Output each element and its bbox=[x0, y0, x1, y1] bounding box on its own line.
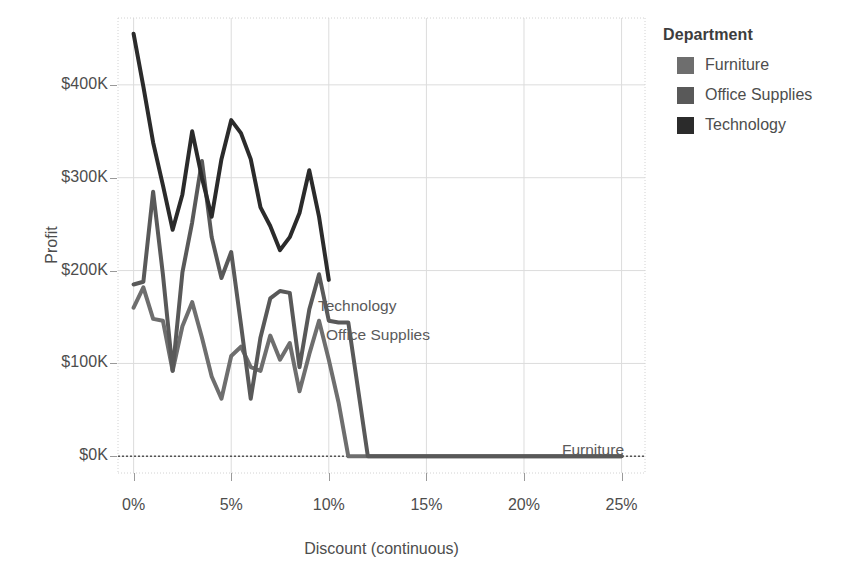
y-tick-mark bbox=[110, 456, 117, 457]
legend-item-label: Office Supplies bbox=[705, 86, 812, 104]
y-tick-label: $100K bbox=[61, 353, 108, 371]
series-lines bbox=[134, 34, 622, 457]
plot-area bbox=[118, 18, 645, 473]
inline-label-furniture: Furniture bbox=[562, 441, 624, 459]
x-tick-mark bbox=[622, 473, 623, 481]
y-tick-mark bbox=[110, 271, 117, 272]
x-tick-mark bbox=[134, 473, 135, 481]
x-tick-label: 5% bbox=[191, 496, 271, 514]
legend-item-office-supplies[interactable]: Office Supplies bbox=[663, 80, 838, 110]
legend-item-technology[interactable]: Technology bbox=[663, 110, 838, 140]
x-tick-label: 0% bbox=[94, 496, 174, 514]
legend-swatch-icon bbox=[677, 117, 694, 134]
legend-items: FurnitureOffice SuppliesTechnology bbox=[663, 50, 838, 140]
y-tick-mark bbox=[110, 363, 117, 364]
x-tick-label: 20% bbox=[484, 496, 564, 514]
y-tick-mark bbox=[110, 85, 117, 86]
plot-canvas bbox=[118, 18, 645, 473]
x-tick-label: 10% bbox=[289, 496, 369, 514]
x-tick-label: 25% bbox=[582, 496, 662, 514]
x-tick-mark bbox=[231, 473, 232, 481]
x-tick-mark bbox=[524, 473, 525, 481]
y-tick-label: $300K bbox=[61, 168, 108, 186]
legend-item-furniture[interactable]: Furniture bbox=[663, 50, 838, 80]
y-tick-label: $400K bbox=[61, 75, 108, 93]
legend-title: Department bbox=[663, 26, 838, 44]
legend-swatch-icon bbox=[677, 57, 694, 74]
chart-title-cropped bbox=[0, 0, 841, 9]
y-tick-label: $200K bbox=[61, 261, 108, 279]
x-tick-mark bbox=[329, 473, 330, 481]
y-tick-mark bbox=[110, 178, 117, 179]
x-tick-label: 15% bbox=[386, 496, 466, 514]
legend-item-label: Furniture bbox=[705, 56, 769, 74]
legend: Department FurnitureOffice SuppliesTechn… bbox=[663, 26, 838, 140]
legend-swatch-icon bbox=[677, 87, 694, 104]
x-axis-title: Discount (continuous) bbox=[118, 540, 645, 558]
y-axis-title: Profit bbox=[43, 185, 61, 305]
legend-item-label: Technology bbox=[705, 116, 786, 134]
x-tick-mark bbox=[426, 473, 427, 481]
inline-label-office-supplies: Office Supplies bbox=[326, 326, 430, 344]
inline-label-technology: Technology bbox=[318, 297, 396, 315]
profit-by-discount-line-chart: $0K$100K$200K$300K$400K 0%5%10%15%20%25%… bbox=[0, 0, 841, 580]
gridlines bbox=[118, 18, 645, 473]
y-tick-label: $0K bbox=[79, 446, 108, 464]
